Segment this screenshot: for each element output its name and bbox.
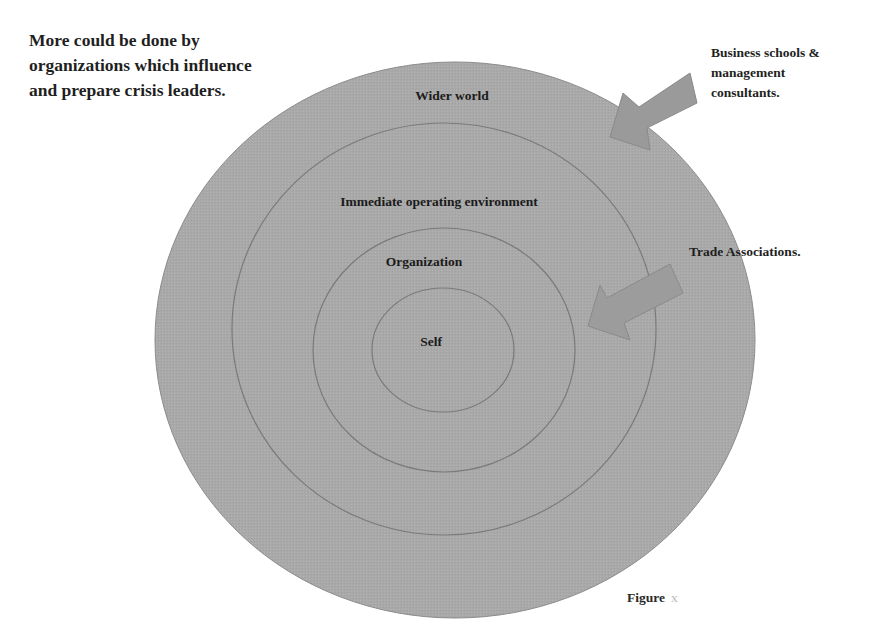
headline-line-3: and prepare crisis leaders. [29, 78, 252, 103]
headline-line-1: More could be done by [29, 28, 252, 53]
ring-label-self: Self [420, 334, 442, 350]
figure-caption: Figurex [627, 590, 678, 606]
callout-trade-associations: Trade Associations. [689, 242, 801, 262]
headline-text: More could be done by organizations whic… [29, 28, 252, 103]
callout-business-schools-line-3: consultants. [711, 83, 820, 103]
ring-label-organization: Organization [386, 254, 463, 270]
figure-caption-number: x [671, 590, 678, 605]
ring-label-immediate-environment: Immediate operating environment [340, 194, 538, 210]
figure-caption-label: Figure [627, 590, 665, 605]
callout-business-schools-line-2: management [711, 63, 820, 83]
callout-business-schools: Business schools & management consultant… [711, 43, 820, 103]
callout-trade-associations-line-1: Trade Associations. [689, 242, 801, 262]
headline-line-2: organizations which influence [29, 53, 252, 78]
callout-business-schools-line-1: Business schools & [711, 43, 820, 63]
ring-label-wider-world: Wider world [415, 88, 488, 104]
